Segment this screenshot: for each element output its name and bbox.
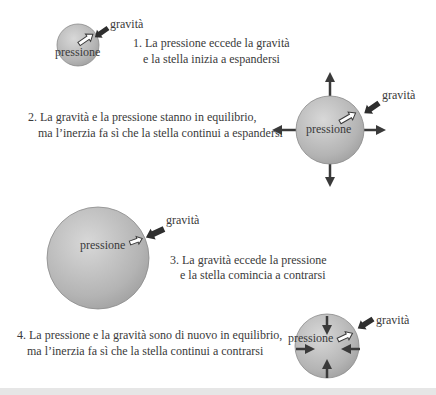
pressure-label: pressione xyxy=(288,331,333,345)
pressure-label: pressione xyxy=(306,122,351,136)
pressure-label: pressione xyxy=(55,45,100,59)
caption-4-line1: 4. La pressione e la gravità sono di nuo… xyxy=(17,328,282,342)
caption-3-line1: 3. La gravità eccede la pressione xyxy=(170,253,327,267)
star-3 xyxy=(47,207,149,309)
caption-4-line2: ma l’inerzia fa sì che la stella continu… xyxy=(27,344,264,358)
gravity-arrow-icon xyxy=(143,224,166,243)
caption-1-line2: e la stella inizia a espandersi xyxy=(143,52,281,66)
gravity-label: gravità xyxy=(376,313,410,327)
gravity-label: gravità xyxy=(382,88,416,102)
bottom-strip xyxy=(0,388,436,395)
stage-1: gravità pressione 1. La pressione eccede… xyxy=(55,17,290,66)
caption-1-line1: 1. La pressione eccede la gravità xyxy=(133,36,290,50)
stage-2: 2. La gravità e la pressione stanno in e… xyxy=(28,77,416,182)
caption-2-line2: ma l’inerzia fa sì che la stella continu… xyxy=(38,126,284,140)
stage-4: 4. La pressione e la gravità sono di nuo… xyxy=(17,313,410,378)
pulsation-diagram: gravità pressione 1. La pressione eccede… xyxy=(0,0,436,395)
stage-3: gravità pressione 3. La gravità eccede l… xyxy=(47,207,327,309)
gravity-arrow-icon xyxy=(355,314,376,333)
caption-3-line2: e la stella comincia a contrarsi xyxy=(180,268,326,282)
gravity-label: gravità xyxy=(110,17,144,31)
caption-2-line1: 2. La gravità e la pressione stanno in e… xyxy=(28,110,257,124)
pressure-label: pressione xyxy=(80,238,125,252)
gravity-arrow-icon xyxy=(361,98,382,117)
gravity-label: gravità xyxy=(166,213,200,227)
